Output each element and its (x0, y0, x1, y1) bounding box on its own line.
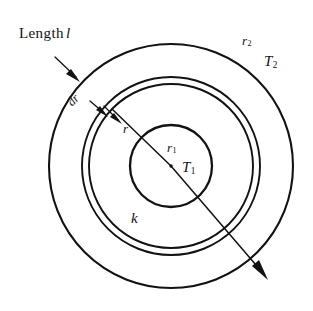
label-r: r (123, 122, 128, 135)
length-arrowhead-icon (66, 69, 80, 82)
label-r2-sub: 2 (247, 39, 252, 48)
label-r2: r2 (242, 34, 252, 49)
label-length: Lengthl (19, 26, 70, 41)
label-length-text: Length (19, 25, 64, 41)
label-t2: T2 (264, 54, 278, 70)
label-t1: T1 (182, 160, 196, 176)
label-k: k (131, 211, 138, 226)
label-length-variable: l (64, 25, 71, 41)
heat-flow-line (171, 166, 262, 272)
label-k-text: k (131, 210, 138, 226)
radial-conduction-diagram: Lengthl dr r r1 T1 r2 T2 k Q (0, 0, 313, 311)
label-r1-sub: 1 (172, 146, 177, 155)
label-t2-sub: 2 (272, 60, 277, 70)
diagram-canvas (0, 0, 313, 311)
label-t1-sub: 1 (190, 166, 195, 176)
label-r1: r1 (167, 141, 177, 156)
label-r-text: r (123, 121, 128, 136)
radius-line-r (112, 109, 171, 166)
